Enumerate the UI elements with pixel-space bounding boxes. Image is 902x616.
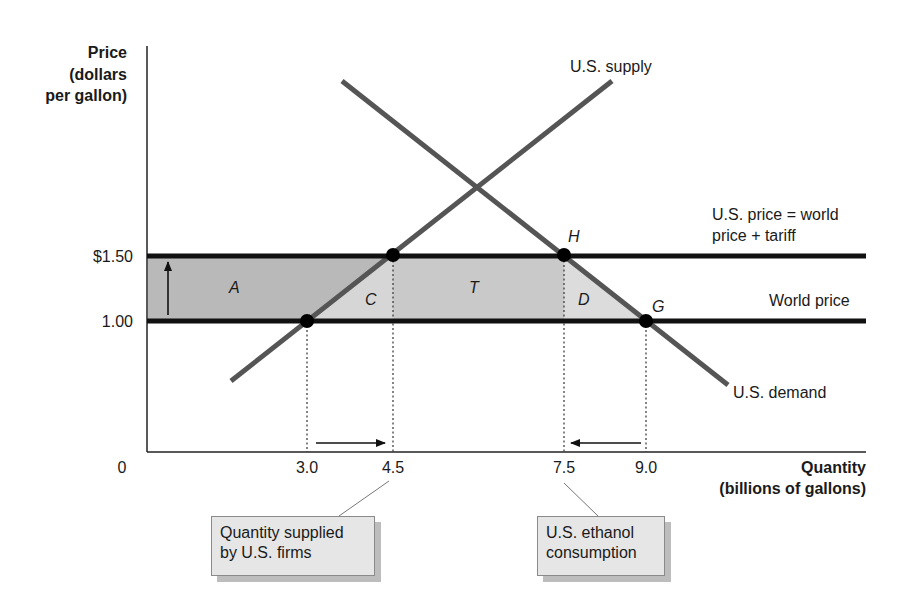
supply-label: U.S. supply [570,58,652,75]
area-a-label: A [228,279,240,296]
y-axis-title-line1: Price [88,44,127,61]
y-tick-1-00: 1.00 [102,313,133,330]
demand-label: U.S. demand [733,384,826,401]
x-axis-title-line2: (billions of gallons) [719,480,866,497]
y-axis-title-line2: (dollars [69,66,127,83]
supply-curve [231,81,612,381]
point-h-label: H [568,228,580,245]
x-tick-3-0: 3.0 [296,459,318,476]
demand-curve [342,81,728,385]
callout-ethanol-consumption-line2: consumption [546,543,656,563]
y-tick-1-50: $1.50 [93,248,133,265]
leader-4-5 [339,481,389,516]
callout-ethanol-consumption: U.S. ethanol consumption [537,516,665,576]
x-tick-7-5: 7.5 [553,459,575,476]
leader-7-5 [564,483,598,516]
tariff-price-label-line2: price + tariff [712,227,796,244]
callout-quantity-supplied: Quantity supplied by U.S. firms [211,516,375,576]
point-g [639,314,653,328]
tariff-chart: Price (dollars per gallon) $1.50 1.00 0 … [0,0,902,616]
point-4-5 [386,248,400,262]
callout-quantity-supplied-line1: Quantity supplied [220,523,366,543]
callout-quantity-supplied-line2: by U.S. firms [220,543,366,563]
x-axis-title-line1: Quantity [801,459,866,476]
x-tick-origin: 0 [118,459,127,476]
callout-ethanol-consumption-line1: U.S. ethanol [546,523,656,543]
area-d-label: D [578,291,590,308]
area-t-label: T [469,279,480,296]
point-h [557,248,571,262]
point-3-0 [300,314,314,328]
point-g-label: G [652,298,664,315]
area-c-label: C [365,291,377,308]
x-tick-9-0: 9.0 [635,459,657,476]
x-tick-4-5: 4.5 [382,459,404,476]
tariff-price-label-line1: U.S. price = world [712,206,839,223]
y-axis-title-line3: per gallon) [45,87,127,104]
world-price-label: World price [769,292,850,309]
